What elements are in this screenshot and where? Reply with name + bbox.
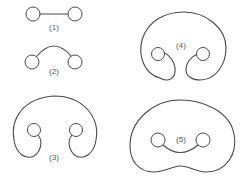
right-node [196, 133, 210, 147]
left-node [152, 48, 165, 61]
figure-4: (4) [141, 12, 226, 80]
right-node [68, 55, 82, 69]
figure-1: (1) [26, 7, 82, 32]
diagram-canvas: (1) (2) (3) (4) (5) [0, 0, 240, 179]
left-node [151, 133, 165, 147]
right-node [68, 7, 82, 21]
right-node [197, 48, 210, 61]
figure-5: (5) [130, 100, 235, 172]
figure-label: (3) [49, 153, 59, 162]
connector-arc [163, 145, 198, 153]
left-node [28, 124, 41, 137]
connector-loop [13, 96, 96, 157]
figure-label: (1) [49, 23, 59, 32]
right-node [70, 124, 83, 137]
figure-2: (2) [25, 46, 82, 76]
left-node [25, 55, 39, 69]
figure-3: (3) [13, 96, 96, 162]
left-node [26, 7, 40, 21]
connector-arc [37, 46, 71, 56]
figure-label: (5) [176, 135, 186, 144]
figure-label: (2) [49, 67, 59, 76]
figure-label: (4) [176, 41, 186, 50]
